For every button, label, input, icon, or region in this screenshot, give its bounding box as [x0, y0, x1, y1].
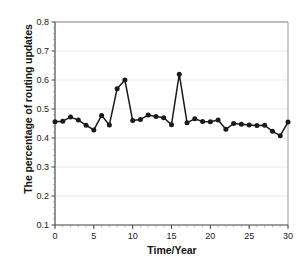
y-tick-label: 0.8	[21, 18, 49, 27]
x-tick-label: 30	[276, 232, 300, 241]
data-point-marker	[177, 72, 182, 77]
data-point-marker	[161, 115, 166, 120]
data-point-marker	[138, 117, 143, 122]
data-point-marker	[84, 123, 89, 128]
data-point-marker	[208, 119, 213, 124]
data-point-marker	[68, 115, 73, 120]
data-point-marker	[53, 119, 58, 124]
y-tick-label: 0.5	[21, 105, 49, 114]
data-point-marker	[200, 119, 205, 124]
chart-container: The percentage of routing updates Time/Y…	[0, 0, 303, 266]
x-tick-label: 10	[121, 232, 145, 241]
x-tick-label: 5	[82, 232, 106, 241]
x-axis-title: Time/Year	[55, 244, 289, 256]
data-point-marker	[99, 113, 104, 118]
x-tick-label: 25	[237, 232, 261, 241]
x-tick-label: 20	[198, 232, 222, 241]
data-point-marker	[262, 123, 267, 128]
data-point-marker	[247, 122, 252, 127]
data-point-marker	[146, 113, 151, 118]
data-point-marker	[223, 127, 228, 132]
x-tick-label: 15	[160, 232, 184, 241]
data-point-marker	[254, 123, 259, 128]
y-tick-label: 0.1	[21, 221, 49, 230]
data-point-marker	[270, 129, 275, 134]
y-tick-label: 0.3	[21, 163, 49, 172]
data-point-marker	[216, 118, 221, 123]
data-point-marker	[192, 116, 197, 121]
y-tick-label: 0.7	[21, 47, 49, 56]
data-point-marker	[115, 86, 120, 91]
data-point-marker	[91, 127, 96, 132]
data-point-marker	[239, 122, 244, 127]
y-tick-label: 0.6	[21, 76, 49, 85]
data-point-marker	[122, 78, 127, 83]
y-tick-label: 0.4	[21, 134, 49, 143]
data-point-marker	[130, 118, 135, 123]
data-point-marker	[185, 120, 190, 125]
data-point-marker	[278, 133, 283, 138]
x-tick-label: 0	[43, 232, 67, 241]
y-tick-label: 0.2	[21, 192, 49, 201]
data-point-marker	[60, 119, 65, 124]
data-point-marker	[231, 121, 236, 126]
data-point-marker	[286, 120, 291, 125]
data-point-marker	[153, 114, 158, 119]
data-point-marker	[107, 122, 112, 127]
data-point-marker	[76, 118, 81, 123]
data-point-marker	[169, 122, 174, 127]
